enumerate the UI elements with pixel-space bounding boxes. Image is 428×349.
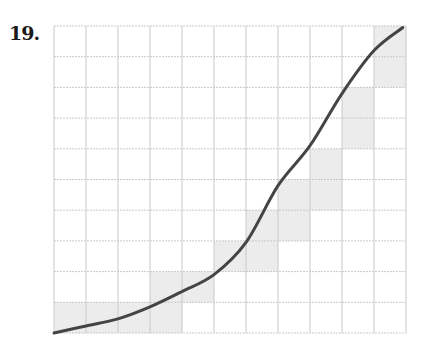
shaded-cell xyxy=(150,302,182,333)
shaded-cell xyxy=(342,87,374,118)
grid-lines xyxy=(54,26,406,333)
shaded-cell xyxy=(278,210,310,241)
shaded-cell xyxy=(310,180,342,211)
shaded-cell xyxy=(374,26,406,57)
shaded-cell xyxy=(278,180,310,211)
shaded-cell xyxy=(150,272,182,303)
curve-line xyxy=(54,28,403,333)
grid-plot xyxy=(0,0,428,349)
shaded-cell xyxy=(246,241,278,272)
shaded-cell xyxy=(374,57,406,88)
shaded-cell xyxy=(86,302,118,333)
shaded-cell xyxy=(342,118,374,149)
shaded-cell xyxy=(310,149,342,180)
shaded-cell xyxy=(214,241,246,272)
